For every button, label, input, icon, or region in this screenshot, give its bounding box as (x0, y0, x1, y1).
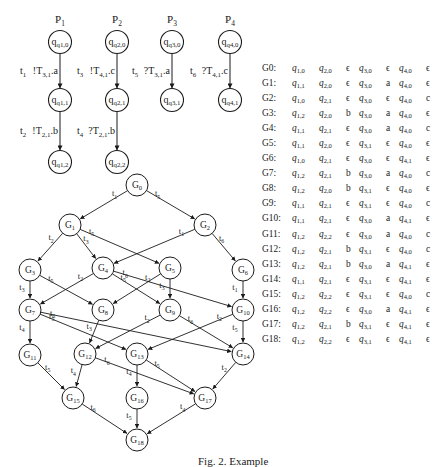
channel-content: ϵ (386, 197, 399, 212)
state-id: G0: (262, 62, 292, 77)
graph-edge (82, 404, 127, 433)
local-state: q3,0 (359, 167, 386, 182)
graph-edge-label: t1 (112, 188, 117, 199)
channel-content: ϵ (346, 333, 359, 348)
channel-content: ϵ (426, 212, 435, 227)
local-state: q1,1 (292, 273, 319, 288)
local-state: q2,1 (319, 167, 346, 182)
local-state: q4,0 (399, 77, 426, 92)
graph-edge-label: t2 (48, 232, 53, 243)
state-id: G8: (262, 182, 292, 197)
local-state: q1,1 (292, 197, 319, 212)
local-state: q4,0 (399, 197, 426, 212)
state-table-row: G1:q1,1q2,0ϵq3,0aq4,0ϵ (262, 77, 435, 92)
channel-content: ϵ (346, 303, 359, 318)
local-state: q2,1 (319, 258, 346, 273)
local-state: q1,1 (292, 77, 319, 92)
channel-content: ϵ (386, 182, 399, 197)
state-id: G18: (262, 333, 292, 348)
state-table-row: G8:q1,2q2,0bq3,1ϵq4,0ϵ (262, 182, 435, 197)
local-state: q2,1 (319, 273, 346, 288)
channel-content: b (346, 182, 359, 197)
channel-content: ϵ (426, 107, 435, 122)
local-state: q4,1 (399, 152, 426, 167)
channel-content: ϵ (426, 182, 435, 197)
local-state: q1,2 (292, 182, 319, 197)
local-state: q4,0 (399, 228, 426, 243)
local-state: q1,2 (292, 333, 319, 348)
local-state: q1,2 (292, 288, 319, 303)
local-state: q4,0 (399, 137, 426, 152)
graph-edge (95, 358, 193, 394)
local-state: q4,0 (399, 167, 426, 182)
graph-edge-label: t5 (45, 362, 50, 373)
transition-id: t3 (77, 65, 84, 78)
graph-edge-label: t4 (180, 401, 185, 412)
local-state: q1,0 (292, 62, 319, 77)
graph-edge-label: t5 (89, 226, 94, 237)
graph-edge-label: t2 (144, 312, 149, 323)
state-table-row: G2:q1,0q2,1ϵq3,0ϵq4,0c (262, 92, 435, 107)
local-state: q2,2 (319, 288, 346, 303)
local-state: q4,1 (399, 333, 426, 348)
channel-content: ϵ (386, 137, 399, 152)
state-id: G6: (262, 152, 292, 167)
channel-content: b (346, 243, 359, 258)
channel-content: a (386, 303, 399, 318)
transition-id: t5 (132, 65, 139, 78)
process-label: P4 (225, 13, 235, 28)
state-id: G14: (262, 273, 292, 288)
graph-edge-label: t2 (222, 362, 227, 373)
figure-caption: Fig. 2. Example (198, 455, 268, 467)
state-table-row: G11:q1,2q2,2ϵq3,0aq4,0c (262, 228, 435, 243)
graph-edge-label: t3 (159, 280, 164, 291)
graph-edge (76, 365, 82, 387)
state-table-row: G13:q1,2q2,1bq3,0aq4,1ϵ (262, 258, 435, 273)
graph-edge-label: t6 (50, 308, 55, 319)
channel-content: ϵ (346, 197, 359, 212)
local-state: q3,0 (359, 212, 386, 227)
local-state: q3,0 (359, 303, 386, 318)
graph-edge-label: t6 (123, 267, 128, 278)
channel-content: ϵ (386, 62, 399, 77)
state-id: G9: (262, 197, 292, 212)
channel-content: a (386, 228, 399, 243)
transition-action: !T3,1.a (33, 65, 59, 79)
local-state: q2,1 (319, 152, 346, 167)
local-state: q3,0 (359, 62, 386, 77)
state-id: G17: (262, 318, 292, 333)
transition-id: t1 (20, 65, 26, 78)
channel-content: c (426, 228, 435, 243)
local-state: q4,0 (399, 122, 426, 137)
local-state: q2,2 (319, 303, 346, 318)
state-id: G7: (262, 167, 292, 182)
local-state: q3,0 (359, 77, 386, 92)
channel-content: c (426, 92, 435, 107)
local-state: q1,1 (292, 212, 319, 227)
channel-content: a (386, 122, 399, 137)
local-state: q1,0 (292, 152, 319, 167)
graph-edge-label: t5 (232, 322, 237, 333)
graph-edge-label: t2 (145, 272, 150, 283)
state-id: G10: (262, 212, 292, 227)
channel-content: a (386, 212, 399, 227)
channel-content: ϵ (386, 92, 399, 107)
transition-action: !T4,1.c (90, 65, 116, 79)
channel-content: ϵ (346, 288, 359, 303)
graph-edge-label: t4 (19, 322, 24, 333)
channel-content: ϵ (346, 122, 359, 137)
process-label: P2 (112, 13, 122, 28)
graph-edge-label: t3 (83, 233, 88, 244)
state-table-row: G4:q1,1q2,1ϵq3,0aq4,0c (262, 122, 435, 137)
graph-edge-label: t5 (155, 188, 160, 199)
channel-content: ϵ (386, 243, 399, 258)
local-state: q3,1 (359, 288, 386, 303)
local-state: q4,1 (399, 258, 426, 273)
channel-content: ϵ (426, 258, 435, 273)
transition-id: t4 (77, 125, 84, 138)
state-table-row: G7:q1,2q2,1bq3,0aq4,0c (262, 167, 435, 182)
graph-edge-label: t6 (219, 233, 224, 244)
graph-edge-label: t2 (217, 311, 222, 322)
graph-edge-label: t2 (78, 271, 83, 282)
state-id: G4: (262, 122, 292, 137)
